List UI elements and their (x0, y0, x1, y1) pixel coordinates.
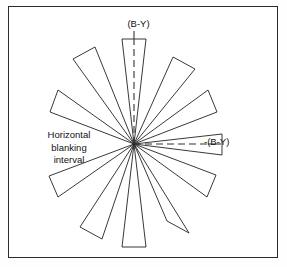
blanking-line-2: blanking (26, 142, 112, 155)
figure-root: (B-Y) -(B-Y) Horizontal blanking interva… (0, 0, 287, 267)
label-horizontal-blanking-interval: Horizontal blanking interval (26, 129, 112, 167)
label-b-minus-y-text: (B-Y) (127, 18, 149, 29)
label-b-minus-y: (B-Y) (0, 18, 287, 31)
blanking-line-1: Horizontal (26, 129, 112, 142)
blanking-line-3: interval (26, 154, 112, 167)
label-negative-b-minus-y: -(B-Y) (204, 136, 229, 149)
